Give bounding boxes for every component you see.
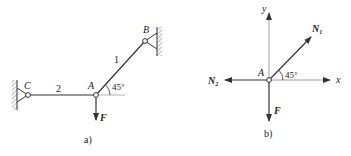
node-a-b bbox=[267, 78, 272, 83]
label-angle-a: 45° bbox=[112, 82, 125, 92]
figure-b: y x A 45° N1 N2 F b) bbox=[207, 3, 341, 140]
caption-a: a) bbox=[84, 134, 92, 146]
label-x-axis: x bbox=[335, 74, 341, 85]
label-force-f-b: F bbox=[273, 105, 281, 116]
pin-b bbox=[143, 39, 148, 44]
label-b: B bbox=[143, 24, 149, 35]
label-bar-2: 2 bbox=[56, 83, 61, 94]
angle-arc bbox=[106, 85, 110, 95]
label-c: C bbox=[24, 80, 31, 91]
label-a-b: A bbox=[257, 67, 265, 78]
node-a bbox=[94, 93, 99, 98]
angle-arc-b bbox=[279, 70, 283, 80]
label-angle-b: 45° bbox=[285, 70, 298, 80]
label-n2: N2 bbox=[207, 75, 218, 87]
caption-b: b) bbox=[264, 128, 272, 140]
label-n1: N1 bbox=[311, 23, 322, 35]
label-bar-1: 1 bbox=[114, 54, 119, 65]
pin-c bbox=[26, 93, 31, 98]
figure-a: C B A 2 1 45° F a) bbox=[12, 24, 162, 146]
label-y-axis: y bbox=[261, 3, 267, 14]
label-a: A bbox=[87, 80, 95, 91]
label-force-f: F bbox=[99, 112, 107, 123]
